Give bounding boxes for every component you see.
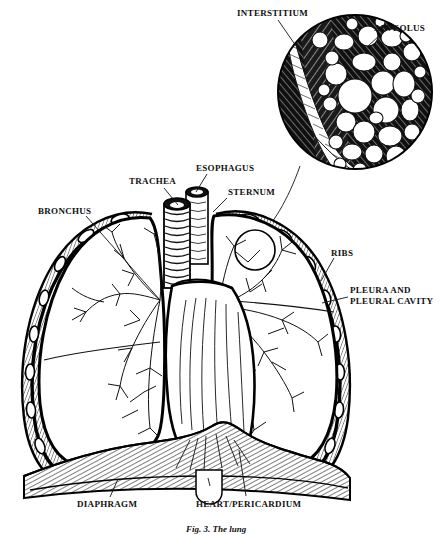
label-esophagus: ESOPHAGUS xyxy=(196,163,254,174)
label-alveolus: ALVEOLUS xyxy=(374,23,425,34)
figure-caption: Fig. 3. The lung xyxy=(186,524,246,534)
label-sternum: STERNUM xyxy=(228,187,275,198)
label-bronchus: BRONCHUS xyxy=(38,206,91,217)
label-diaphragm: DIAPHRAGM xyxy=(77,499,137,510)
label-pleura-line-2: PLEURAL CAVITY xyxy=(350,296,433,307)
label-heart-pericardium: HEART/PERICARDIUM xyxy=(196,499,301,510)
label-pleura-line-1: PLEURA AND xyxy=(350,285,433,296)
label-pleura-and-pleural-cavity: PLEURA AND PLEURAL CAVITY xyxy=(350,285,433,306)
label-interstitium: INTERSTITIUM xyxy=(237,8,308,19)
label-trachea: TRACHEA xyxy=(129,176,176,187)
label-ribs: RIBS xyxy=(331,248,353,259)
trachea-tube xyxy=(164,198,190,288)
